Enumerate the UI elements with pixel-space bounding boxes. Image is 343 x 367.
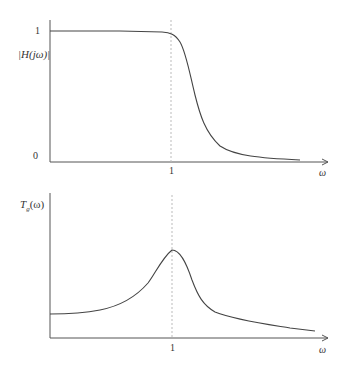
bottom-y-axis-label: Tg(ω) (20, 198, 44, 213)
bottom-x-axis-label: ω (319, 344, 326, 355)
top-x-tick-1: 1 (169, 165, 174, 176)
top-plot (50, 20, 328, 165)
bottom-plot (50, 193, 328, 341)
bottom-group-delay-curve (50, 250, 315, 331)
top-magnitude-curve (50, 31, 300, 160)
top-x-axis-label: ω (319, 167, 326, 178)
top-y-axis-label: |H(jω)| (18, 48, 50, 60)
top-y-tick-0: 0 (33, 150, 38, 161)
bottom-x-tick-1: 1 (170, 342, 175, 353)
chart-canvas (0, 0, 343, 367)
bottom-y-label-arg: (ω) (30, 198, 45, 210)
top-y-tick-1: 1 (35, 25, 40, 36)
